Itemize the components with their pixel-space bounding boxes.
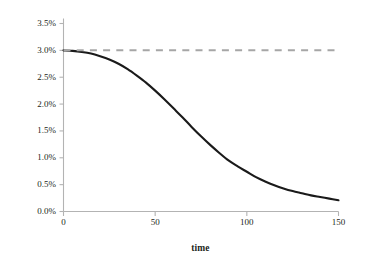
plot-area xyxy=(0,0,367,268)
chart-figure: growth rate time 0.0%0.5%1.0%1.5%2.0%2.5… xyxy=(0,0,367,268)
series-line xyxy=(64,50,339,200)
